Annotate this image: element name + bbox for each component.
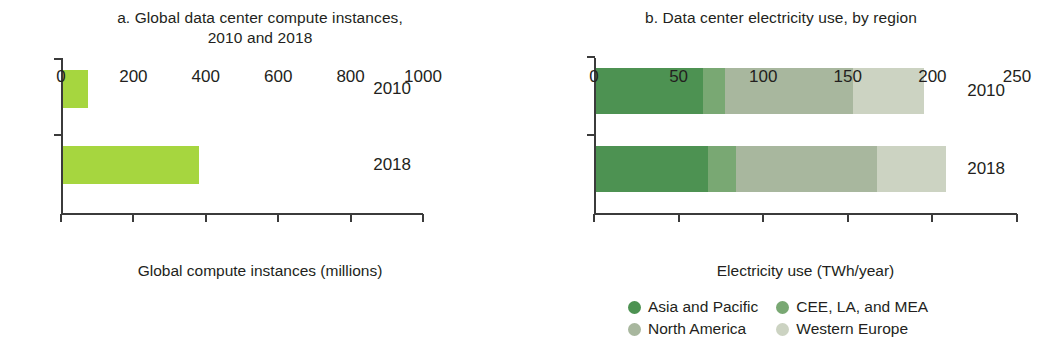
- panel-b-title: b. Data center electricity use, by regio…: [520, 8, 1042, 28]
- panel-a-x-tick-label: 400: [192, 67, 220, 87]
- panel-b-x-tick-label: 0: [589, 67, 598, 87]
- panel-b-plot-area: 05010015020025020102018: [594, 58, 1017, 215]
- panel-a-compute-instances: a. Global data center compute instances,…: [0, 0, 520, 352]
- panel-b-x-tick-label: 250: [1003, 67, 1031, 87]
- panel-a-x-tick: [132, 214, 134, 222]
- panel-b-segment-western-europe: [877, 146, 946, 192]
- panel-b-x-axis-title: Electricity use (TWh/year): [594, 262, 1017, 280]
- panel-a-x-tick: [350, 214, 352, 222]
- panel-b-x-tick-label: 200: [918, 67, 946, 87]
- panel-b-x-tick-label: 150: [834, 67, 862, 87]
- panel-b-segment-cee-la-and-mea: [703, 68, 725, 114]
- legend-label: Asia and Pacific: [648, 298, 758, 316]
- panel-a-plot-area: 0200400600800100020102018: [61, 58, 423, 215]
- panel-b-x-tick: [678, 214, 680, 222]
- figure-two-panel-chart: a. Global data center compute instances,…: [0, 0, 1042, 352]
- panel-b-x-tick: [931, 214, 933, 222]
- legend-item: North America: [628, 320, 758, 338]
- legend-item: CEE, LA, and MEA: [776, 298, 928, 316]
- legend-swatch-icon: [776, 301, 789, 314]
- panel-a-title: a. Global data center compute instances,…: [0, 8, 520, 48]
- panel-a-x-tick-label: 200: [119, 67, 147, 87]
- legend-swatch-icon: [776, 323, 789, 336]
- legend-label: Western Europe: [796, 320, 908, 338]
- legend-swatch-icon: [628, 323, 641, 336]
- panel-b-legend: Asia and PacificCEE, LA, and MEANorth Am…: [628, 298, 928, 338]
- panel-b-segment-cee-la-and-mea: [708, 146, 737, 192]
- legend-label: CEE, LA, and MEA: [796, 298, 928, 316]
- panel-a-x-tick-label: 800: [336, 67, 364, 87]
- panel-b-x-tick: [847, 214, 849, 222]
- panel-a-bar-2010: [63, 70, 88, 108]
- panel-b-segment-north-america: [736, 146, 876, 192]
- panel-a-x-tick-label: 600: [264, 67, 292, 87]
- panel-b-x-tick: [1016, 214, 1018, 222]
- panel-b-segment-asia-and-pacific: [596, 146, 708, 192]
- panel-b-x-tick-label: 50: [669, 67, 688, 87]
- panel-a-x-tick: [205, 214, 207, 222]
- legend-label: North America: [648, 320, 746, 338]
- legend-swatch-icon: [628, 301, 641, 314]
- panel-b-segment-western-europe: [853, 68, 924, 114]
- panel-b-x-tick: [593, 214, 595, 222]
- panel-a-x-axis: [61, 213, 423, 215]
- panel-b-category-label: 2010: [967, 81, 1005, 101]
- panel-b-bar-2018: [596, 146, 946, 192]
- panel-a-category-label: 2010: [373, 79, 411, 99]
- panel-a-category-label: 2018: [373, 155, 411, 175]
- panel-b-x-tick-label: 100: [749, 67, 777, 87]
- panel-b-category-label: 2018: [967, 159, 1005, 179]
- panel-a-x-tick: [277, 214, 279, 222]
- panel-a-category-label-tick: [54, 134, 62, 136]
- panel-a-x-axis-title: Global compute instances (millions): [0, 262, 520, 280]
- legend-item: Western Europe: [776, 320, 928, 338]
- panel-b-category-label-tick: [587, 134, 595, 136]
- panel-b-x-tick: [762, 214, 764, 222]
- panel-b-x-axis: [594, 213, 1017, 215]
- panel-a-x-tick: [422, 214, 424, 222]
- legend-item: Asia and Pacific: [628, 298, 758, 316]
- panel-a-x-tick: [60, 214, 62, 222]
- panel-a-bar-2018: [63, 146, 199, 184]
- panel-a-x-tick-label: 0: [56, 67, 65, 87]
- panel-a-category-label-tick: [54, 58, 62, 60]
- panel-b-category-label-tick: [587, 56, 595, 58]
